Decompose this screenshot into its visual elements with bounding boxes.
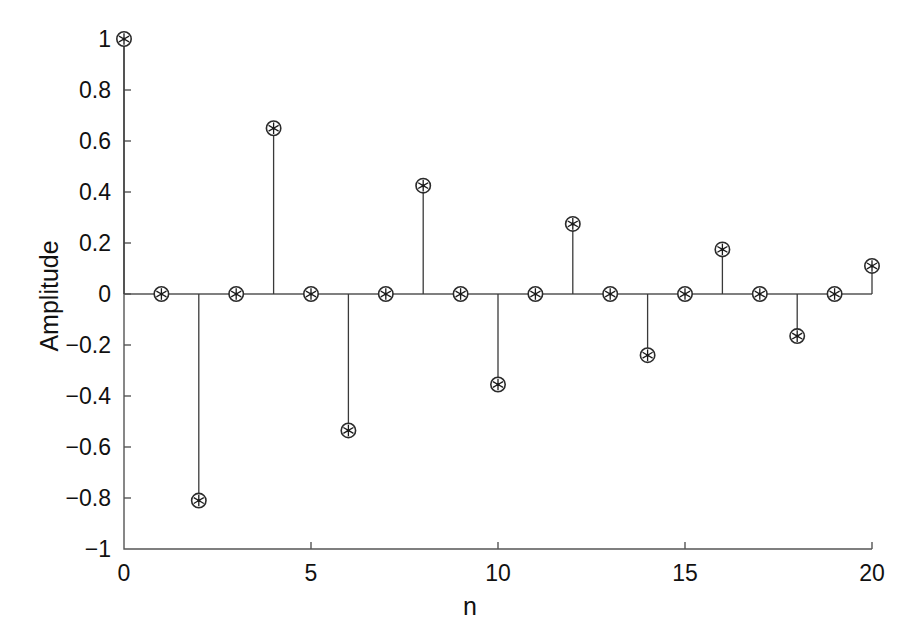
data-point-marker	[790, 329, 804, 343]
data-point-marker	[827, 287, 841, 301]
y-tick-label: 0.8	[79, 77, 111, 103]
y-axis-ticks: −1−0.8−0.6−0.4−0.200.20.40.60.81	[66, 26, 131, 562]
data-point-marker	[416, 178, 430, 192]
plot-canvas: −1−0.8−0.6−0.4−0.200.20.40.60.81 0510152…	[0, 0, 920, 640]
y-axis-label: Amplitude	[35, 240, 63, 351]
x-tick-label: 10	[485, 560, 511, 586]
data-point-marker	[566, 217, 580, 231]
data-point-marker	[678, 287, 692, 301]
data-point-marker	[865, 259, 879, 273]
data-point-marker	[753, 287, 767, 301]
data-point-marker	[603, 287, 617, 301]
x-tick-label: 5	[305, 560, 318, 586]
x-axis-label: n	[463, 592, 477, 620]
data-point-marker	[715, 242, 729, 256]
data-point-marker	[640, 348, 654, 362]
x-tick-label: 0	[118, 560, 131, 586]
y-tick-label: 0.2	[79, 230, 111, 256]
data-point-marker	[304, 287, 318, 301]
data-point-marker	[491, 377, 505, 391]
data-point-marker	[117, 32, 131, 46]
y-tick-label: 0.6	[79, 128, 111, 154]
y-tick-label: −1	[85, 536, 111, 562]
data-point-marker	[154, 287, 168, 301]
data-point-marker	[453, 287, 467, 301]
y-tick-label: 0.4	[79, 179, 111, 205]
y-tick-label: −0.4	[66, 383, 112, 409]
y-tick-label: 0	[98, 281, 111, 307]
x-tick-label: 20	[859, 560, 885, 586]
data-point-marker	[192, 493, 206, 507]
data-point-marker	[229, 287, 243, 301]
data-point-marker	[379, 287, 393, 301]
data-point-marker	[341, 423, 355, 437]
y-tick-label: −0.2	[66, 332, 111, 358]
x-tick-label: 15	[672, 560, 698, 586]
stem-plot-figure: −1−0.8−0.6−0.4−0.200.20.40.60.81 0510152…	[0, 0, 920, 640]
stem-lines	[124, 39, 872, 501]
y-tick-label: −0.6	[66, 434, 111, 460]
data-markers	[117, 32, 879, 508]
y-tick-label: 1	[98, 26, 111, 52]
y-tick-label: −0.8	[66, 485, 111, 511]
data-point-marker	[266, 121, 280, 135]
data-point-marker	[528, 287, 542, 301]
